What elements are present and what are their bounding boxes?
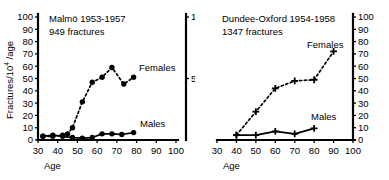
middle-axis-group: 10050 (186, 11, 195, 140)
y-tick-label: 80 (358, 36, 369, 47)
malmo-plot: 010203040506070809010030405060708090100A… (0, 0, 195, 180)
panel-subtitle: 1347 fractures (222, 26, 283, 37)
x-tick-group: 30405060708090100 (33, 140, 184, 156)
x-axis-title: Age (223, 160, 240, 171)
y-tick-label: 40 (22, 85, 33, 96)
data-point-marker (272, 128, 279, 135)
x-tick-label: 80 (309, 145, 320, 156)
y-tick-label: 40 (358, 85, 369, 96)
series-females: Females (233, 39, 344, 138)
y-tick-label: 70 (22, 48, 33, 59)
y-tick-label: 80 (22, 36, 33, 47)
data-point-marker (131, 75, 136, 80)
data-point-marker (90, 79, 95, 84)
series-label-males: Males (311, 111, 337, 122)
series-males: Males (233, 111, 337, 138)
y-tick-label: 60 (358, 61, 369, 72)
data-point-marker (252, 132, 259, 139)
data-point-marker (233, 132, 240, 139)
y-tick-label: 20 (358, 110, 369, 121)
y-tick-label: 50 (22, 73, 33, 84)
y-tick-label: 70 (358, 48, 369, 59)
y-axis-title: Fractures/104 /age (3, 41, 15, 119)
data-point-marker (60, 134, 65, 139)
chart-panel-dundee-oxford: 010203040506070809010030405060708090100A… (195, 0, 389, 180)
y-tick-label: 100 (17, 11, 33, 22)
y-tick-group: 0102030405060708090100 (17, 11, 38, 145)
x-tick-label: 80 (131, 145, 142, 156)
y-tick-label: 60 (22, 61, 33, 72)
x-tick-label: 50 (251, 145, 262, 156)
data-point-marker (99, 75, 104, 80)
series-label-males: Males (140, 118, 166, 129)
x-tick-label: 50 (72, 145, 83, 156)
chart-panel-malmo: 010203040506070809010030405060708090100A… (0, 0, 195, 180)
x-tick-label: 60 (92, 145, 103, 156)
data-point-marker (80, 135, 85, 140)
x-tick-label: 70 (289, 145, 300, 156)
x-tick-label: 40 (231, 145, 242, 156)
x-tick-label: 90 (328, 145, 339, 156)
x-axis-title: Age (44, 160, 61, 171)
y-tick-label: 0 (358, 134, 363, 145)
x-tick-label: 100 (168, 145, 184, 156)
data-point-marker (70, 135, 75, 140)
figure-root: 010203040506070809010030405060708090100A… (0, 0, 389, 180)
dundee-oxford-plot: 010203040506070809010030405060708090100A… (195, 0, 389, 180)
data-point-marker (119, 132, 124, 137)
series-line (43, 67, 134, 136)
y-tick-label: 90 (358, 24, 369, 35)
series-line (236, 51, 333, 135)
y-tick-label: 100 (358, 11, 374, 22)
series-label-females: Females (139, 62, 176, 73)
y-tick-label: 0 (28, 134, 33, 145)
svg-text:Fractures/104 /age: Fractures/104 /age (3, 41, 15, 119)
data-point-marker (291, 78, 298, 85)
data-point-marker (90, 135, 95, 140)
data-point-marker (109, 131, 114, 136)
data-point-marker (80, 99, 85, 104)
panel-title: Malmö 1953-1957 (49, 13, 126, 24)
panel-title: Dundee-Oxford 1954-1958 (222, 13, 335, 24)
y-tick-label: 20 (22, 110, 33, 121)
x-tick-label: 100 (345, 145, 361, 156)
y-tick-label: 90 (22, 24, 33, 35)
y-tick-label: 10 (358, 122, 369, 133)
x-tick-label: 70 (112, 145, 123, 156)
y-tick-group: 0102030405060708090100 (353, 11, 374, 145)
x-tick-label: 90 (151, 145, 162, 156)
x-tick-label: 40 (52, 145, 63, 156)
panel-subtitle: 949 fractures (49, 26, 105, 37)
data-point-marker (311, 125, 318, 132)
data-point-marker (121, 81, 126, 86)
data-point-marker (40, 134, 45, 139)
x-tick-label: 30 (212, 145, 223, 156)
data-point-marker (311, 76, 318, 83)
data-point-marker (70, 125, 75, 130)
data-point-marker (291, 130, 298, 137)
data-point-marker (109, 65, 114, 70)
y-tick-label: 30 (358, 98, 369, 109)
y-tick-label: 10 (22, 122, 33, 133)
data-point-marker (65, 131, 70, 136)
x-tick-label: 60 (270, 145, 281, 156)
data-point-marker (99, 131, 104, 136)
series-males: Males (40, 118, 165, 141)
y-tick-label: 30 (22, 98, 33, 109)
series-label-females: Females (307, 39, 344, 50)
y-tick-label: 50 (358, 73, 369, 84)
x-tick-label: 30 (33, 145, 44, 156)
data-point-marker (50, 132, 55, 137)
x-tick-group: 30405060708090100 (212, 140, 361, 156)
data-point-marker (131, 130, 136, 135)
